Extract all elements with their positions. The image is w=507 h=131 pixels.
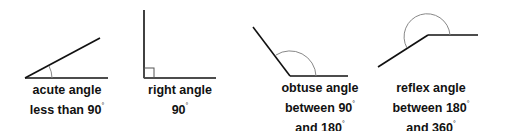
right-angle-figure <box>144 10 216 78</box>
reflex-label-line1: reflex angle <box>361 81 501 96</box>
right-label-line1: right angle <box>110 83 250 98</box>
reflex-label-line2: between 180° <box>361 96 501 116</box>
reflex-angle-figure <box>378 14 478 67</box>
reflex-angle-label: reflex angle between 180° and 360° <box>361 81 501 131</box>
acute-angle-figure <box>25 38 108 78</box>
reflex-label-line3: and 360° <box>361 116 501 131</box>
obtuse-angle-figure <box>253 27 348 76</box>
right-label-line2: 90° <box>110 98 250 118</box>
right-angle-label: right angle 90° <box>110 83 250 118</box>
